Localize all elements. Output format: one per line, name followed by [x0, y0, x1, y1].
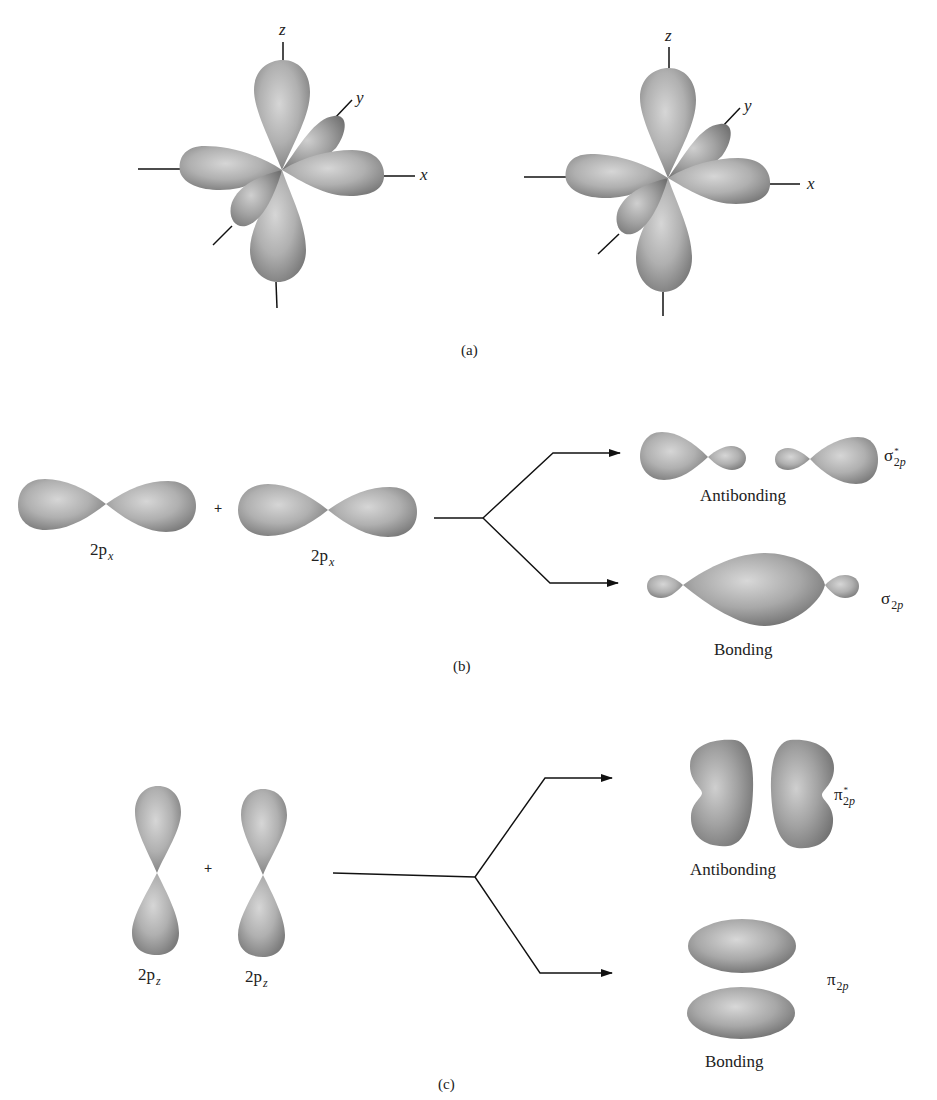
orbital-diagram-canvas — [0, 0, 937, 1100]
sigma-star-2p-symbol: σ*2p — [884, 446, 906, 466]
plus-sign: + — [204, 860, 212, 876]
panel-label-c: (c) — [438, 1076, 455, 1093]
antibonding-label: Antibonding — [700, 486, 786, 506]
pi-star-2p-symbol: π*2p — [834, 785, 855, 805]
sigma-star-antibonding-orbital — [640, 432, 878, 484]
pi-2p-symbol: π2p — [827, 970, 849, 990]
arrow-to-bonding — [475, 877, 612, 973]
pi-bonding-orbital — [687, 919, 796, 1039]
p-orbitals-3d-left — [138, 42, 415, 308]
orbital-label-2px-2: 2px — [311, 546, 334, 566]
arrow-to-bonding — [483, 518, 618, 583]
panel-label-b: (b) — [453, 658, 471, 675]
sigma-2p-symbol: σ2p — [881, 589, 903, 609]
sigma-bonding-orbital — [647, 553, 859, 626]
panel-label-a: (a) — [461, 342, 478, 359]
z-axis-line-bottom — [276, 282, 277, 308]
sigma-combination — [18, 432, 878, 626]
p-orbitals-3d-right — [524, 47, 800, 316]
atomic-orbital-2pz-1 — [132, 786, 181, 955]
arrow-to-antibonding — [475, 778, 612, 877]
x-axis-label: x — [420, 165, 428, 185]
atomic-orbital-2px-1 — [18, 479, 196, 532]
x-axis-label: x — [807, 174, 815, 194]
y-axis-label: y — [744, 96, 752, 116]
bonding-label: Bonding — [705, 1052, 764, 1072]
orbital-label-2px-1: 2px — [90, 540, 113, 560]
y-axis-label: y — [356, 88, 364, 108]
z-axis-label: z — [665, 26, 672, 46]
z-axis-label: z — [279, 20, 286, 40]
antibonding-label: Antibonding — [690, 860, 776, 880]
branch-stem — [333, 873, 475, 877]
bonding-label: Bonding — [714, 640, 773, 660]
atomic-orbital-2pz-2 — [238, 789, 287, 957]
pi-combination — [132, 740, 834, 1039]
pi-star-antibonding-orbital — [690, 740, 834, 848]
atomic-orbital-2px-2 — [238, 484, 417, 537]
y-axis-line-bottom — [213, 226, 232, 245]
plus-sign: + — [214, 500, 222, 516]
orbital-label-2pz-1: 2pz — [138, 965, 161, 985]
y-axis-line-bottom — [598, 234, 619, 254]
arrow-to-antibonding — [483, 453, 620, 518]
orbital-label-2pz-2: 2pz — [245, 967, 268, 987]
